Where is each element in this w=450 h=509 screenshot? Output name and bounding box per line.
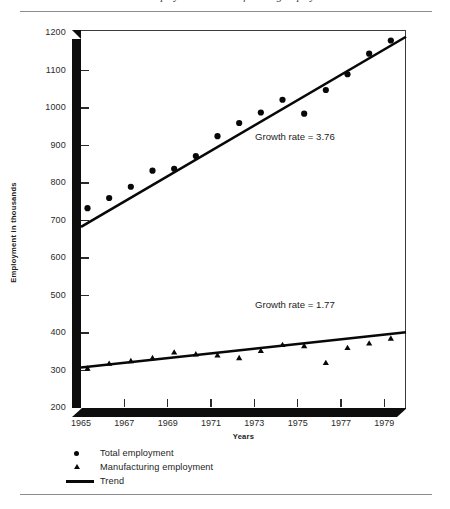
employment-chart-figure: Total employment and manufacturing emplo… <box>0 0 450 509</box>
y-axis-tick <box>81 107 89 108</box>
bottom-divider-rule <box>20 494 432 495</box>
y-axis-tick <box>81 220 89 221</box>
x-axis-tick <box>384 399 385 407</box>
circle-marker-icon <box>66 446 94 460</box>
triangle-marker-icon <box>66 460 94 474</box>
x-axis-tick <box>124 399 125 407</box>
annotation-growth-rate-total: Growth rate = 3.76 <box>255 131 335 142</box>
x-axis-title: Years <box>81 432 406 441</box>
legend-label: Total employment <box>100 446 174 460</box>
y-axis-tick <box>81 295 89 296</box>
y-axis-tick <box>81 182 89 183</box>
x-axis-tick-label: 1969 <box>158 418 178 428</box>
y-axis-tick <box>81 332 89 333</box>
y-axis-title: Employment in thousands <box>9 158 18 308</box>
top-divider-rule <box>20 11 432 12</box>
line-marker-icon <box>66 474 94 488</box>
annotation-growth-rate-manufacturing: Growth rate = 1.77 <box>255 299 335 310</box>
chart-title: Total employment and manufacturing emplo… <box>60 0 400 2</box>
y-axis-tick <box>81 257 89 258</box>
y-axis-tick <box>81 70 89 71</box>
y-axis-bar <box>72 30 81 408</box>
x-axis-tick-label: 1967 <box>114 418 134 428</box>
x-axis-tick-label: 1975 <box>288 418 308 428</box>
y-axis-tick <box>81 145 89 146</box>
x-axis-tick <box>297 399 298 407</box>
x-axis-tick-label: 1965 <box>71 418 91 428</box>
legend-label: Manufacturing employment <box>100 460 213 474</box>
x-axis-tick <box>254 399 255 407</box>
x-axis-bar <box>72 408 406 417</box>
legend-label: Trend <box>100 474 124 488</box>
x-axis-tick <box>340 399 341 407</box>
x-axis-tick <box>167 399 168 407</box>
x-axis-tick-label: 1973 <box>244 418 264 428</box>
y-axis-tick <box>81 370 89 371</box>
x-axis-tick <box>210 399 211 407</box>
x-axis-tick-label: 1979 <box>374 418 394 428</box>
x-axis-tick-label: 1977 <box>331 418 351 428</box>
plot-area <box>81 30 406 408</box>
x-axis-tick-label: 1971 <box>201 418 221 428</box>
